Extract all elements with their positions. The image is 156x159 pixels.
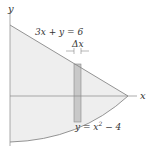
delta-x-label: Δx [71, 39, 84, 49]
x-axis-label: x [140, 90, 146, 101]
line-label: 3x + y = 6 [35, 27, 83, 37]
parabola-label: y = x2 − 4 [74, 120, 122, 132]
y-axis-label: y [7, 3, 14, 14]
strip [74, 64, 81, 122]
region-diagram: y x 3x + y = 6 Δx y = x2 − 4 [0, 0, 156, 159]
